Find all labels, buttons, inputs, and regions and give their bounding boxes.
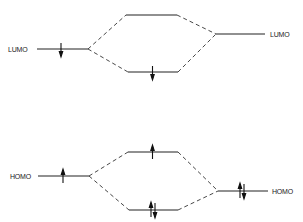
down-arrow-icon	[59, 43, 62, 57]
right-homo-label: HOMO	[272, 188, 294, 195]
left-homo-label: HOMO	[10, 173, 32, 180]
connector-line	[89, 152, 128, 176]
connector-line	[88, 15, 126, 49]
connector-line	[178, 191, 218, 210]
down-arrow-icon	[151, 66, 154, 80]
homo-interaction-group: HOMO HOMO	[10, 145, 294, 218]
lumo-interaction-group: LUMO LUMO	[8, 15, 290, 80]
connector-line	[177, 15, 216, 34]
left-lumo-label: LUMO	[8, 46, 28, 53]
right-lumo-label: LUMO	[270, 31, 290, 38]
connector-line	[89, 176, 129, 210]
connector-line	[178, 152, 218, 191]
connector-line	[178, 34, 216, 72]
connector-line	[88, 49, 128, 72]
mo-diagram: LUMO LUMO HOMO	[0, 0, 303, 222]
